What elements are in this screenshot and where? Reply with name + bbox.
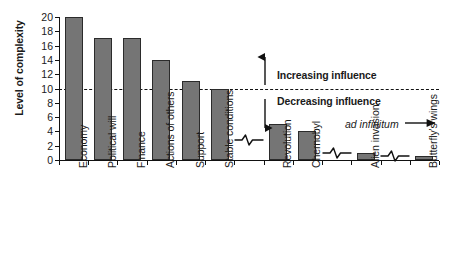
x-tick-mark (410, 161, 411, 165)
y-tick-label: 6 (33, 112, 53, 123)
y-tick-mark (55, 117, 59, 118)
x-category-label: Butterfly's wings (428, 94, 439, 168)
y-tick-label: 20 (33, 12, 53, 23)
y-tick-label: 12 (33, 69, 53, 80)
y-tick-label: 2 (33, 140, 53, 151)
y-tick-mark (55, 46, 59, 47)
x-tick-mark (351, 161, 352, 165)
y-tick-label: 14 (33, 55, 53, 66)
y-tick-mark (55, 60, 59, 61)
y-tick-label: 16 (33, 40, 53, 51)
x-category-label: Actions of others (165, 91, 176, 168)
x-tick-mark (322, 161, 323, 165)
x-tick-mark (439, 161, 440, 165)
y-tick-mark (55, 17, 59, 18)
y-tick-mark (55, 103, 59, 104)
axis-break-squiggle-icon (381, 149, 409, 163)
decreasing-influence-label: Decreasing influence (277, 95, 381, 107)
x-category-label: Support (195, 132, 206, 168)
y-axis-title: Level of complexity (13, 8, 25, 128)
y-tick-mark (55, 131, 59, 132)
x-tick-mark (176, 161, 177, 165)
x-category-label: Political will (107, 116, 118, 168)
ad-infinitum-arrow-icon (405, 118, 445, 130)
threshold-dashed-line (59, 89, 439, 90)
increasing-influence-label: Increasing influence (277, 69, 377, 81)
x-category-label: Alien invasion (370, 105, 381, 168)
complexity-bar-chart: Level of complexity 02468101214161820 In… (0, 0, 451, 264)
y-tick-label: 10 (33, 83, 53, 94)
y-tick-label: 18 (33, 26, 53, 37)
x-category-label: Finance (136, 131, 147, 168)
x-category-label: Economy (78, 125, 89, 168)
x-category-label: Revolution (282, 119, 293, 168)
y-tick-label: 8 (33, 98, 53, 109)
y-tick-label: 4 (33, 126, 53, 137)
x-tick-mark (264, 161, 265, 165)
y-tick-mark (55, 146, 59, 147)
x-category-label: Stable conditions (224, 90, 235, 168)
y-tick-mark (55, 31, 59, 32)
axis-break-squiggle-icon (323, 146, 351, 160)
y-tick-label: 0 (33, 155, 53, 166)
influence-arrows-icon (254, 54, 278, 136)
x-category-label: Chernobyl (311, 121, 322, 168)
y-tick-mark (55, 74, 59, 75)
x-tick-mark (59, 161, 60, 165)
